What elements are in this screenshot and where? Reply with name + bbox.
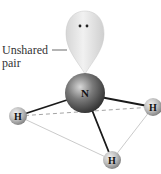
molecule-drawing: N H H H [0,0,161,174]
hydrogen-atom-bottom: H [103,151,121,169]
hydrogen-atom-right: H [144,98,161,116]
electron-dot [79,25,82,28]
nitrogen-symbol: N [81,87,89,99]
edge-bottom-right [112,107,153,160]
electron-dot [86,25,89,28]
unshared-label-line1: Unshared [2,44,48,56]
hydrogen-symbol: H [149,102,157,113]
hydrogen-symbol: H [14,111,22,122]
unshared-label-line2: pair [2,57,21,69]
ammonia-geometry-diagram: N H H H Unshared pair [0,0,161,174]
nitrogen-atom: N [65,73,105,113]
hydrogen-symbol: H [108,155,116,166]
hydrogen-atom-left: H [9,107,27,125]
lone-pair-lobe [66,11,104,74]
triangle-edges [18,107,153,160]
